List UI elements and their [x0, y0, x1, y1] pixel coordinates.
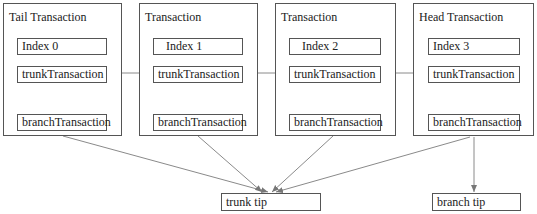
transaction-title: Transaction: [281, 10, 337, 25]
transaction-box-2: Transaction Index 2 trunkTransaction bra…: [275, 3, 396, 136]
transaction-title: Transaction: [145, 10, 201, 25]
branch-transaction-field: branchTransaction: [289, 114, 381, 131]
edge-txn2-to-trunk-tip: [272, 136, 333, 192]
branch-transaction-field: branchTransaction: [153, 114, 243, 131]
transaction-title: Tail Transaction: [9, 10, 87, 25]
edge-txn1-to-trunk-tip: [198, 136, 262, 192]
edge-head-to-trunk-tip: [276, 137, 470, 192]
index-field: Index 0: [17, 38, 107, 55]
branch-tip-box: branch tip: [432, 193, 521, 211]
trunk-transaction-field: trunkTransaction: [289, 66, 381, 83]
branch-transaction-field: branchTransaction: [428, 114, 520, 131]
transaction-title: Head Transaction: [419, 10, 503, 25]
transaction-box-head: Head Transaction Index 3 trunkTransactio…: [413, 3, 534, 136]
index-field: Index 2: [289, 38, 381, 55]
transaction-box-1: Transaction Index 1 trunkTransaction bra…: [139, 3, 258, 136]
trunk-transaction-field: trunkTransaction: [17, 66, 107, 83]
transaction-box-tail: Tail Transaction Index 0 trunkTransactio…: [3, 3, 122, 136]
trunk-tip-box: trunk tip: [221, 193, 321, 211]
trunk-transaction-field: trunkTransaction: [153, 66, 243, 83]
index-field: Index 1: [153, 38, 243, 55]
index-field: Index 3: [428, 38, 520, 55]
edge-tail-to-trunk-tip: [63, 136, 268, 192]
branch-transaction-field: branchTransaction: [17, 114, 107, 131]
trunk-transaction-field: trunkTransaction: [428, 66, 520, 83]
